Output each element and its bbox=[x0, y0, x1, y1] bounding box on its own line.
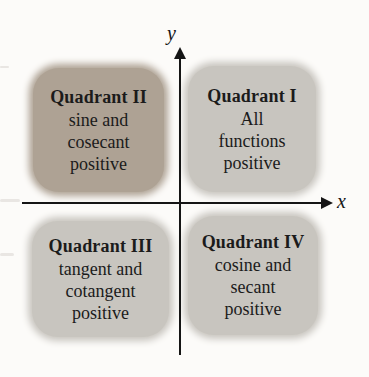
quadrant-3-text-line: tangent and bbox=[59, 258, 142, 280]
quadrant-2-title: Quadrant II bbox=[50, 86, 147, 109]
quadrant-1-text-line: positive bbox=[224, 152, 281, 174]
quadrant-4-text-line: secant bbox=[231, 276, 276, 298]
quadrant-4-text-line: positive bbox=[225, 298, 282, 320]
y-axis-label: y bbox=[167, 22, 176, 45]
y-axis-line bbox=[179, 56, 181, 355]
x-axis-arrow-icon bbox=[321, 197, 333, 209]
scan-artifact bbox=[0, 66, 9, 68]
quadrant-1-box: Quadrant I All functions positive bbox=[188, 66, 316, 192]
quadrant-2-text-line: sine and bbox=[69, 109, 128, 131]
quadrant-4-title: Quadrant IV bbox=[202, 231, 305, 254]
quadrant-4-box: Quadrant IV cosine and secant positive bbox=[188, 216, 318, 335]
quadrant-3-box: Quadrant III tangent and cotangent posit… bbox=[32, 221, 169, 337]
quadrant-1-text-line: functions bbox=[219, 130, 286, 152]
quadrant-3-title: Quadrant III bbox=[49, 235, 153, 258]
quadrant-2-box: Quadrant II sine and cosecant positive bbox=[33, 68, 164, 192]
x-axis-line bbox=[22, 202, 324, 204]
quadrant-2-text-line: cosecant bbox=[68, 131, 130, 153]
scan-artifact bbox=[0, 253, 14, 256]
y-axis-arrow-icon bbox=[174, 47, 186, 59]
quadrant-4-text-line: cosine and bbox=[215, 254, 291, 276]
quadrant-diagram: Quadrant II sine and cosecant positive Q… bbox=[0, 0, 369, 377]
quadrant-3-text-line: positive bbox=[72, 302, 129, 324]
x-axis-label: x bbox=[337, 190, 346, 213]
scan-artifact bbox=[0, 199, 20, 202]
quadrant-1-text-line: All bbox=[240, 108, 263, 130]
quadrant-2-text-line: positive bbox=[70, 153, 127, 175]
quadrant-3-text-line: cotangent bbox=[66, 280, 136, 302]
quadrant-1-title: Quadrant I bbox=[207, 85, 297, 108]
